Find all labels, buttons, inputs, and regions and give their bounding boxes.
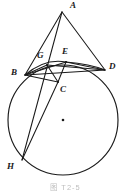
circle-center-dot [62,119,65,122]
geometry-figure: A B G E D C H 图 T2-5 [0,0,131,196]
vertex-label-G: G [37,51,44,60]
figure-caption: 图 T2-5 [0,184,131,192]
vertex-label-E: E [62,47,68,56]
segment-A-D [62,12,105,70]
figure-canvas [0,0,131,196]
vertex-label-C: C [60,85,66,94]
segment-B-C [25,75,58,82]
vertex-dot-E [65,61,67,63]
vertex-label-H: H [7,162,14,171]
vertex-label-A: A [70,1,76,10]
vertex-dot-G [46,64,48,66]
vertex-label-B: B [11,68,17,77]
vertex-dot-C [57,81,59,83]
vertex-label-D: D [109,62,116,71]
